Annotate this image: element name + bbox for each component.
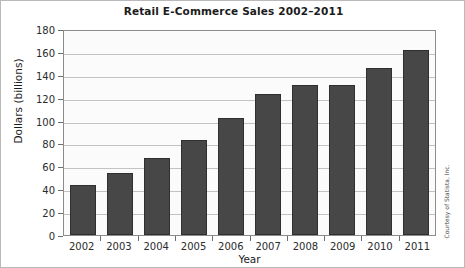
bar — [144, 158, 170, 235]
y-axis-tick-mark — [58, 167, 63, 168]
x-axis-tick-labels: 2002200320042005200620072008200920102011 — [63, 241, 436, 252]
y-axis-tick-mark — [58, 122, 63, 123]
chart-figure: Retail E-Commerce Sales 2002–2011 Dollar… — [0, 0, 465, 268]
y-axis-tick-mark — [58, 213, 63, 214]
x-axis-tick-mark — [287, 236, 288, 241]
x-axis-tick-mark — [175, 236, 176, 241]
y-axis-tick-mark — [58, 190, 63, 191]
y-axis-tick-label: 60 — [29, 162, 55, 173]
x-axis-tick-mark — [399, 236, 400, 241]
y-axis-tick-label: 160 — [29, 47, 55, 58]
y-axis-tick-mark — [58, 30, 63, 31]
x-axis-tick-mark — [138, 236, 139, 241]
y-axis-tick-label: 180 — [29, 25, 55, 36]
x-axis-tick-label: 2006 — [215, 241, 247, 252]
bar — [107, 173, 133, 235]
x-axis-tick-label: 2002 — [66, 241, 98, 252]
x-axis-tick-label: 2011 — [401, 241, 433, 252]
bar — [292, 85, 318, 235]
y-axis-tick-label: 80 — [29, 139, 55, 150]
x-axis-tick-mark — [100, 236, 101, 241]
credit-text: Courtesy of Statista, Inc. — [443, 143, 450, 239]
bar — [181, 140, 207, 235]
x-axis-tick-label: 2007 — [252, 241, 284, 252]
y-axis-tick-label: 100 — [29, 116, 55, 127]
bar — [218, 118, 244, 235]
bar — [403, 50, 429, 235]
x-axis-tick-label: 2004 — [140, 241, 172, 252]
chart-title: Retail E-Commerce Sales 2002–2011 — [1, 5, 465, 17]
y-axis-tick-label: 20 — [29, 208, 55, 219]
y-axis-tick-mark — [58, 53, 63, 54]
y-axis-tick-mark — [58, 144, 63, 145]
x-axis-tick-mark — [324, 236, 325, 241]
x-axis-label: Year — [63, 253, 436, 265]
x-axis-tick-label: 2005 — [178, 241, 210, 252]
y-axis-tick-mark — [58, 236, 63, 237]
y-axis-tick-mark — [58, 76, 63, 77]
x-axis-tick-label: 2009 — [327, 241, 359, 252]
y-axis-tick-label: 120 — [29, 93, 55, 104]
x-axis-tick-mark — [212, 236, 213, 241]
bar — [329, 85, 355, 235]
y-axis-label: Dollars (billions) — [12, 41, 24, 161]
x-axis-tick-label: 2010 — [364, 241, 396, 252]
x-axis-tick-mark — [250, 236, 251, 241]
y-axis-tick-mark — [58, 99, 63, 100]
plot-area — [63, 30, 436, 236]
x-axis-tick-label: 2003 — [103, 241, 135, 252]
y-axis-tick-label: 0 — [29, 231, 55, 242]
x-axis-tick-label: 2008 — [289, 241, 321, 252]
x-axis-tick-mark — [361, 236, 362, 241]
y-axis-tick-labels: 020406080100120140160180 — [27, 30, 55, 236]
bar-series — [64, 31, 435, 235]
bar — [70, 185, 96, 235]
y-axis-tick-label: 40 — [29, 185, 55, 196]
bar — [366, 68, 392, 235]
bar — [255, 94, 281, 235]
y-axis-tick-label: 140 — [29, 70, 55, 81]
